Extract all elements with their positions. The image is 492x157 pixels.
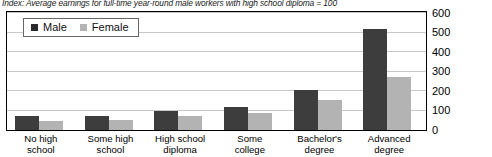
bar-group (355, 12, 425, 130)
chart-root: Index: Average earnings for full-time ye… (0, 0, 492, 157)
legend-label-male: Male (43, 22, 67, 33)
bar-male (15, 116, 39, 130)
bar-female (178, 116, 202, 130)
bar-female (248, 113, 272, 130)
bar-group (216, 12, 286, 130)
legend-label-female: Female (92, 22, 129, 33)
bar-female (387, 77, 411, 130)
bar-group (146, 12, 216, 130)
legend-swatch-female-icon (80, 24, 87, 31)
y-tick-label-500: 500 (432, 27, 450, 38)
y-tick-label-400: 400 (432, 46, 450, 57)
bar-male (85, 116, 109, 130)
legend-item-female: Female (80, 22, 129, 33)
x-axis-labels: No highschoolSome highschoolHigh schoold… (6, 133, 427, 157)
bar-male (294, 90, 318, 130)
x-tick-label: High schooldiploma (145, 133, 215, 156)
y-axis-labels: 0100200300400500600 (432, 11, 472, 131)
x-tick-label: Advanceddegree (354, 133, 424, 156)
chart-subtitle: Index: Average earnings for full-time ye… (2, 0, 432, 8)
bar-group (286, 12, 356, 130)
bar-male (154, 111, 178, 131)
legend-swatch-male-icon (31, 24, 38, 31)
y-tick-label-0: 0 (432, 124, 438, 135)
bar-female (318, 100, 342, 130)
y-tick-label-100: 100 (432, 105, 450, 116)
y-tick-label-600: 600 (432, 7, 450, 18)
y-tick-label-200: 200 (432, 85, 450, 96)
x-tick-label: No highschool (6, 133, 76, 156)
x-tick-label: Bachelor'sdegree (285, 133, 355, 156)
y-tick-label-300: 300 (432, 66, 450, 77)
x-tick-label: Somecollege (215, 133, 285, 156)
bar-female (39, 121, 63, 130)
bar-male (224, 107, 248, 130)
bar-female (109, 120, 133, 130)
x-tick-label: Some highschool (76, 133, 146, 156)
bar-male (363, 29, 387, 130)
chart-legend: Male Female (23, 18, 139, 37)
legend-item-male: Male (31, 22, 67, 33)
